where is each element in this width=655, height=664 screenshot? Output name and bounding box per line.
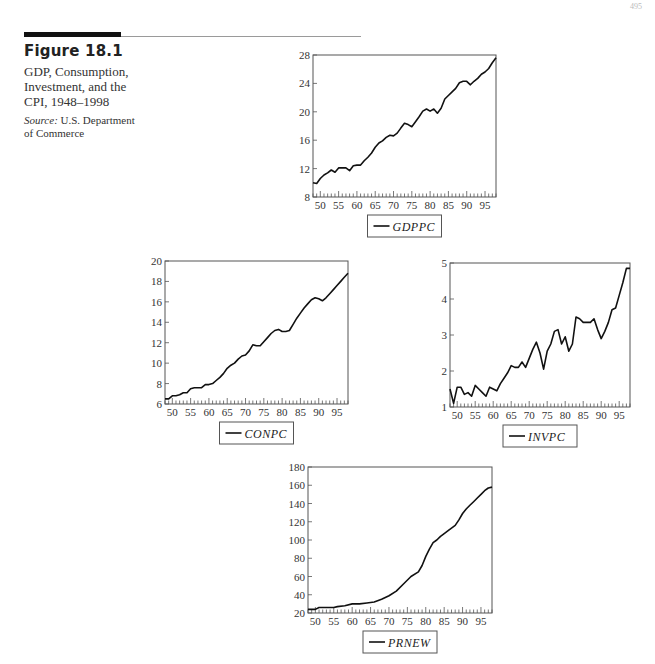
x-tick-label: 50	[167, 406, 179, 418]
plot-frame	[308, 467, 492, 613]
x-tick-label: 90	[457, 615, 469, 627]
x-tick-label: 75	[258, 406, 270, 418]
series-line-invpc	[450, 268, 630, 403]
legend-label: CONPC	[245, 427, 288, 441]
x-tick-label: 95	[614, 409, 626, 421]
plot-frame	[313, 55, 496, 197]
x-tick-label: 50	[310, 615, 322, 627]
series-line-gdppc	[313, 58, 496, 184]
legend-label: INVPC	[527, 430, 566, 444]
y-tick-label: 18	[151, 275, 163, 287]
x-tick-label: 95	[332, 406, 344, 418]
x-tick-label: 95	[480, 199, 492, 211]
x-tick-label: 65	[365, 615, 377, 627]
y-tick-label: 24	[299, 77, 311, 89]
x-tick-label: 80	[425, 199, 437, 211]
x-tick-label: 85	[443, 199, 455, 211]
y-tick-label: 5	[442, 257, 448, 269]
y-tick-label: 20	[151, 255, 163, 267]
y-tick-label: 180	[289, 461, 306, 473]
y-tick-label: 8	[157, 378, 163, 390]
x-tick-label: 80	[420, 615, 432, 627]
x-tick-label: 75	[542, 409, 554, 421]
y-tick-label: 12	[299, 163, 310, 175]
x-tick-label: 70	[240, 406, 252, 418]
x-tick-label: 60	[347, 615, 359, 627]
y-tick-label: 120	[289, 516, 306, 528]
x-tick-label: 90	[461, 199, 473, 211]
x-tick-label: 75	[402, 615, 414, 627]
x-tick-label: 70	[524, 409, 536, 421]
x-tick-label: 65	[370, 199, 382, 211]
x-tick-label: 60	[351, 199, 363, 211]
y-tick-label: 40	[294, 589, 306, 601]
x-tick-label: 65	[222, 406, 234, 418]
y-tick-label: 3	[442, 329, 448, 341]
plot-frame	[165, 261, 348, 404]
x-tick-label: 60	[488, 409, 500, 421]
y-tick-label: 12	[151, 337, 162, 349]
x-tick-label: 85	[578, 409, 590, 421]
y-tick-label: 140	[289, 498, 306, 510]
series-line-prnew	[308, 487, 492, 609]
chart-prnew: 2040608010012014016018050556065707580859…	[289, 461, 493, 653]
legend: GDPPC	[368, 215, 442, 237]
y-tick-label: 14	[151, 316, 163, 328]
legend-label: PRNEW	[387, 636, 431, 650]
y-tick-label: 8	[305, 191, 311, 203]
x-tick-label: 50	[315, 199, 327, 211]
x-tick-label: 75	[406, 199, 418, 211]
y-tick-label: 160	[289, 479, 306, 491]
x-tick-label: 80	[277, 406, 289, 418]
chart-invpc: 1234550556065707580859095INVPC	[442, 257, 631, 447]
legend: CONPC	[220, 422, 294, 444]
x-tick-label: 90	[596, 409, 608, 421]
y-tick-label: 2	[442, 365, 448, 377]
chart-conpc: 6810121416182050556065707580859095CONPC	[151, 255, 348, 444]
x-tick-label: 85	[295, 406, 307, 418]
x-tick-label: 60	[203, 406, 215, 418]
charts-canvas: 8121620242850556065707580859095GDPPC 681…	[0, 0, 655, 664]
y-tick-label: 20	[299, 106, 311, 118]
y-tick-label: 16	[151, 296, 163, 308]
y-tick-label: 28	[299, 49, 311, 61]
y-tick-label: 60	[294, 571, 306, 583]
y-tick-label: 6	[157, 398, 163, 410]
y-tick-label: 1	[442, 401, 448, 413]
series-line-conpc	[165, 273, 348, 399]
y-tick-label: 4	[442, 293, 448, 305]
x-tick-label: 55	[185, 406, 197, 418]
x-tick-label: 80	[560, 409, 572, 421]
x-tick-label: 70	[383, 615, 395, 627]
y-tick-label: 20	[294, 607, 306, 619]
x-tick-label: 55	[333, 199, 345, 211]
x-tick-label: 50	[452, 409, 464, 421]
legend: PRNEW	[363, 631, 437, 653]
x-tick-label: 85	[439, 615, 451, 627]
x-tick-label: 65	[506, 409, 518, 421]
y-tick-label: 16	[299, 134, 311, 146]
x-tick-label: 70	[388, 199, 400, 211]
x-tick-label: 90	[313, 406, 325, 418]
x-tick-label: 95	[475, 615, 487, 627]
x-tick-label: 55	[328, 615, 340, 627]
y-tick-label: 10	[151, 357, 163, 369]
legend-label: GDPPC	[393, 220, 436, 234]
legend: INVPC	[503, 425, 577, 447]
y-tick-label: 80	[294, 552, 306, 564]
x-tick-label: 55	[470, 409, 482, 421]
chart-gdppc: 8121620242850556065707580859095GDPPC	[299, 49, 496, 237]
y-tick-label: 100	[289, 534, 306, 546]
